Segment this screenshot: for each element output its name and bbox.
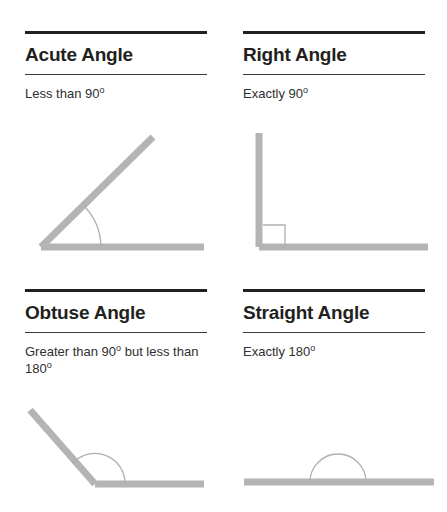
degree-symbol-secondary: o — [47, 360, 52, 370]
subtitle-text: Exactly 90 — [243, 86, 303, 101]
straight-angle-semicircle-arc — [310, 454, 366, 482]
degree-symbol: o — [310, 343, 315, 353]
panel-heading-obtuse: Obtuse Angle — [25, 292, 207, 332]
acute-diagonal-ray — [41, 137, 153, 247]
right-angle-square-marker — [263, 225, 285, 244]
degree-symbol: o — [99, 85, 104, 95]
right-angle-diagram — [238, 120, 438, 260]
acute-angle-arc — [83, 205, 101, 247]
panel-subtitle-straight: Exactly 180o — [243, 333, 423, 360]
panel-subtitle-right: Exactly 90o — [243, 75, 423, 102]
obtuse-diagonal-ray — [30, 410, 95, 484]
subtitle-text: Exactly 180 — [243, 344, 310, 359]
panel-subtitle-obtuse: Greater than 90o but less than 180o — [25, 333, 205, 377]
panel-subtitle-acute: Less than 90o — [25, 75, 205, 102]
panel-acute-angle: Acute Angle Less than 90o — [25, 31, 207, 102]
panel-right-angle: Right Angle Exactly 90o — [243, 31, 425, 102]
angles-reference-grid: Acute Angle Less than 90o Right Angle Ex… — [0, 0, 447, 512]
subtitle-text: Greater than 90 — [25, 344, 116, 359]
acute-angle-diagram — [14, 120, 214, 260]
panel-heading-acute: Acute Angle — [25, 34, 207, 74]
degree-symbol: o — [303, 85, 308, 95]
subtitle-text: Less than 90 — [25, 86, 99, 101]
straight-angle-diagram — [238, 420, 438, 500]
panel-heading-right: Right Angle — [243, 34, 425, 74]
panel-straight-angle: Straight Angle Exactly 180o — [243, 289, 425, 360]
panel-obtuse-angle: Obtuse Angle Greater than 90o but less t… — [25, 289, 207, 377]
obtuse-angle-diagram — [14, 392, 214, 502]
panel-heading-straight: Straight Angle — [243, 292, 425, 332]
